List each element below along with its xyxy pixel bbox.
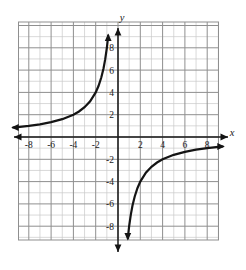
- y-tick-label: 8: [109, 43, 114, 53]
- x-axis-label: x: [229, 127, 235, 138]
- curve-arrow-up: [105, 34, 112, 42]
- y-axis-arrow-down: [115, 245, 122, 253]
- x-tick-label: 2: [138, 140, 143, 150]
- curve-arrow-left: [11, 124, 19, 131]
- curve-arrow-down: [124, 233, 131, 241]
- x-tick-label: 8: [205, 140, 210, 150]
- y-tick-label: 6: [109, 66, 114, 76]
- x-axis-arrow-left: [14, 134, 22, 141]
- y-tick-label: -2: [106, 155, 114, 165]
- curve-arrow-right: [217, 143, 225, 150]
- y-tick-label: -8: [106, 222, 114, 232]
- x-tick-label: 4: [160, 140, 165, 150]
- x-axis-arrow-right: [221, 134, 229, 141]
- x-tick-label: -6: [47, 140, 55, 150]
- graph-canvas: -8-6-4-224688642-2-4-6-8 x y: [0, 0, 246, 270]
- y-tick-label: 2: [109, 110, 114, 120]
- coordinate-graph: -8-6-4-224688642-2-4-6-8 x y: [0, 0, 246, 270]
- x-tick-label: -4: [69, 140, 77, 150]
- y-tick-label: -6: [106, 199, 114, 209]
- y-axis-arrow-up: [115, 28, 122, 36]
- y-tick-label: -4: [106, 177, 114, 187]
- x-tick-label: -8: [25, 140, 33, 150]
- x-tick-label: 6: [183, 140, 188, 150]
- x-tick-label: -2: [92, 140, 100, 150]
- y-tick-label: 4: [109, 88, 114, 98]
- y-axis-label: y: [119, 12, 125, 23]
